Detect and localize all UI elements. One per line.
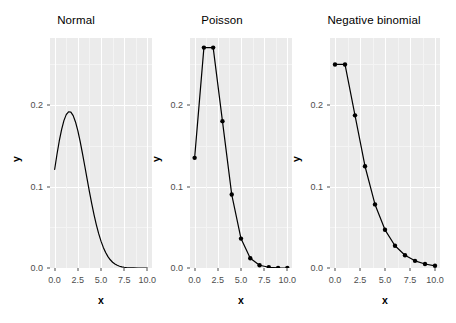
- y-tick-label: 0.1: [170, 182, 183, 192]
- x-tick-mark: [410, 268, 411, 271]
- x-tick-mark: [101, 268, 102, 271]
- plot-area-negative-binomial: [330, 38, 440, 268]
- y-tick-label: 0.2: [30, 100, 43, 110]
- x-tick-mark: [124, 268, 125, 271]
- x-tick-mark: [360, 268, 361, 271]
- y-axis-title-normal: y: [10, 149, 22, 169]
- x-tick-label: 2.5: [354, 275, 367, 285]
- y-tick-label: 0.1: [310, 182, 323, 192]
- x-tick-mark: [287, 268, 288, 271]
- data-point: [211, 45, 215, 49]
- x-tick-label: 5.0: [95, 275, 108, 285]
- panel-negative-binomial: Negative binomial 0.00.10.2 0.02.55.07.5…: [292, 0, 456, 323]
- x-axis-normal: 0.02.55.07.510.0: [50, 268, 152, 294]
- data-point: [353, 113, 357, 117]
- x-tick-label: 0.0: [329, 275, 342, 285]
- x-tick-mark: [217, 268, 218, 271]
- data-point: [403, 253, 407, 257]
- x-tick-label: 10.0: [426, 275, 444, 285]
- panel-title-negative-binomial: Negative binomial: [292, 14, 456, 26]
- x-tick-mark: [194, 268, 195, 271]
- panel-title-normal: Normal: [0, 14, 152, 26]
- series-1: [190, 38, 292, 268]
- series-line: [335, 64, 435, 265]
- series-2: [330, 38, 440, 268]
- data-point: [248, 256, 252, 260]
- y-tick-label: 0.0: [30, 263, 43, 273]
- data-point: [202, 45, 206, 49]
- data-point: [230, 192, 234, 196]
- data-point: [343, 62, 347, 66]
- data-point: [239, 236, 243, 240]
- y-tick-label: 0.0: [310, 263, 323, 273]
- x-tick-label: 2.5: [212, 275, 225, 285]
- x-tick-mark: [335, 268, 336, 271]
- data-point: [413, 259, 417, 263]
- x-tick-label: 0.0: [188, 275, 201, 285]
- panel-title-poisson: Poisson: [152, 14, 292, 26]
- x-tick-mark: [241, 268, 242, 271]
- series-0: [50, 38, 152, 268]
- panel-normal: Normal 0.00.10.2 0.02.55.07.510.0 x y: [0, 0, 152, 323]
- x-tick-label: 5.0: [379, 275, 392, 285]
- data-point: [423, 262, 427, 266]
- x-axis-negative-binomial: 0.02.55.07.510.0: [330, 268, 440, 294]
- x-axis-title-negative-binomial: x: [330, 294, 440, 306]
- data-point: [383, 228, 387, 232]
- x-tick-label: 7.5: [404, 275, 417, 285]
- x-tick-label: 5.0: [235, 275, 248, 285]
- x-tick-mark: [385, 268, 386, 271]
- x-axis-title-poisson: x: [190, 294, 292, 306]
- data-point: [333, 62, 337, 66]
- x-tick-mark: [264, 268, 265, 271]
- y-tick-label: 0.2: [310, 100, 323, 110]
- data-point: [192, 156, 196, 160]
- y-tick-label: 0.2: [170, 100, 183, 110]
- data-point: [363, 164, 367, 168]
- plot-area-normal: [50, 38, 152, 268]
- x-tick-mark: [147, 268, 148, 271]
- data-point: [220, 119, 224, 123]
- x-tick-label: 7.5: [258, 275, 271, 285]
- plot-area-poisson: [190, 38, 292, 268]
- y-axis-title-poisson: y: [150, 149, 162, 169]
- x-tick-label: 2.5: [72, 275, 85, 285]
- data-point: [373, 202, 377, 206]
- series-line: [195, 48, 288, 268]
- panel-poisson: Poisson 0.00.10.2 0.02.55.07.510.0 x y: [152, 0, 292, 323]
- x-tick-mark: [77, 268, 78, 271]
- series-line: [55, 112, 148, 268]
- x-axis-poisson: 0.02.55.07.510.0: [190, 268, 292, 294]
- y-axis-title-negative-binomial: y: [290, 149, 302, 169]
- x-tick-mark: [435, 268, 436, 271]
- faceted-distribution-figure: Normal 0.00.10.2 0.02.55.07.510.0 x y Po…: [0, 0, 456, 323]
- x-tick-label: 7.5: [118, 275, 131, 285]
- x-tick-mark: [54, 268, 55, 271]
- x-tick-label: 0.0: [48, 275, 61, 285]
- y-tick-label: 0.0: [170, 263, 183, 273]
- data-point: [393, 244, 397, 248]
- x-axis-title-normal: x: [50, 294, 152, 306]
- data-point: [257, 263, 261, 267]
- y-tick-label: 0.1: [30, 182, 43, 192]
